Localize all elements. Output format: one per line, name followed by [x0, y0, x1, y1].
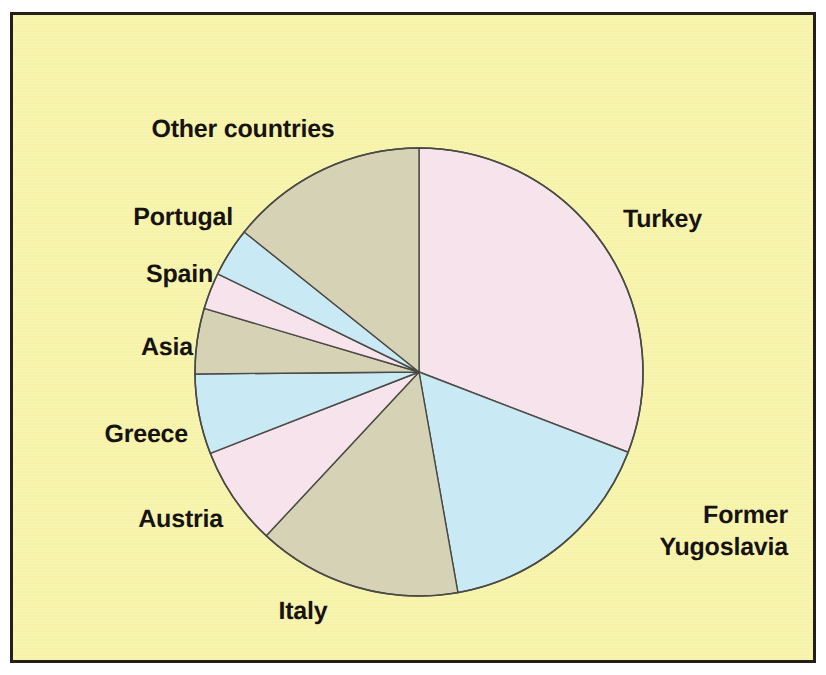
- pie-label-spain: Spain: [53, 260, 213, 289]
- pie-label-portugal: Portugal: [53, 203, 233, 232]
- screenshot-root: Other countries Portugal Spain Asia Gree…: [0, 0, 826, 675]
- pie-label-austria: Austria: [33, 505, 223, 534]
- pie-label-turkey: Turkey: [623, 205, 803, 234]
- pie-label-former-yugoslavia-line2: Yugoslavia: [553, 533, 788, 562]
- pie-label-former-yugoslavia-line1: Former: [573, 501, 788, 530]
- pie-label-italy: Italy: [243, 597, 363, 626]
- chart-frame: Other countries Portugal Spain Asia Gree…: [10, 12, 816, 663]
- pie-label-greece: Greece: [33, 420, 188, 449]
- pie-label-other-countries: Other countries: [103, 115, 383, 144]
- pie-label-asia: Asia: [43, 333, 193, 362]
